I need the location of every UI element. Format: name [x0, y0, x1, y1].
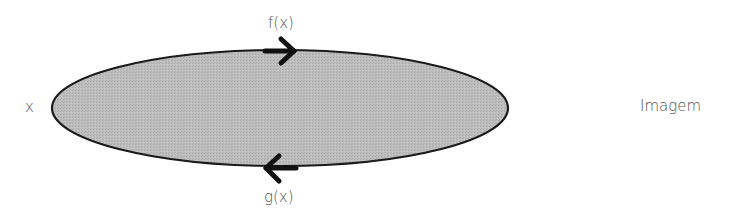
bottom-arrow-label: g(x) — [264, 188, 294, 206]
codomain-label: Imagem — [640, 97, 701, 115]
domain-label: x — [25, 98, 34, 116]
top-arrow-label: f(x) — [268, 14, 294, 32]
diagram-canvas — [0, 0, 732, 219]
mapping-ellipse — [52, 50, 508, 166]
